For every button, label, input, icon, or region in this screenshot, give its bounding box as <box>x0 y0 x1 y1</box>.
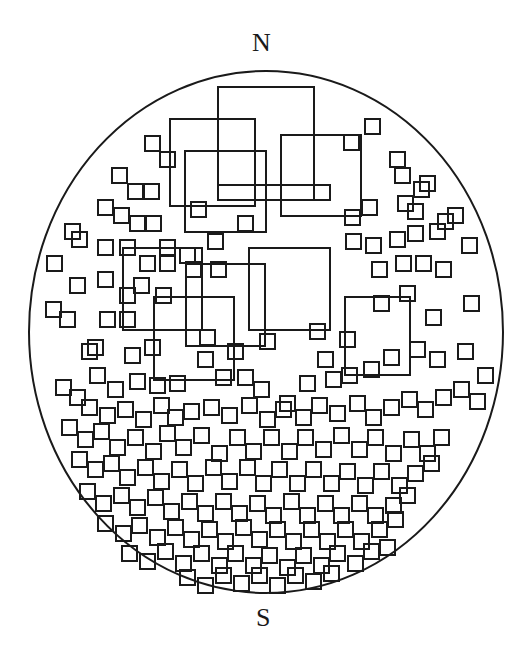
small-square <box>364 544 379 559</box>
small-square <box>110 440 125 455</box>
small-square <box>318 496 333 511</box>
small-square <box>396 256 411 271</box>
small-square <box>270 522 285 537</box>
small-square <box>296 548 311 563</box>
small-square <box>366 238 381 253</box>
small-square <box>276 402 291 417</box>
large-squares-group <box>123 87 410 380</box>
small-square <box>290 476 305 491</box>
small-square <box>374 296 389 311</box>
small-square <box>344 135 359 150</box>
small-square <box>420 176 435 191</box>
small-square <box>108 382 123 397</box>
small-square <box>170 376 185 391</box>
small-square <box>168 410 183 425</box>
small-square <box>194 428 209 443</box>
small-square <box>334 508 349 523</box>
small-square <box>262 548 277 563</box>
south-label: S <box>256 605 270 631</box>
small-square <box>236 520 251 535</box>
small-square <box>368 430 383 445</box>
small-square <box>408 466 423 481</box>
small-square <box>176 556 191 571</box>
small-square <box>286 534 301 549</box>
small-square <box>145 136 160 151</box>
small-square <box>404 432 419 447</box>
small-square <box>104 456 119 471</box>
small-square <box>358 478 373 493</box>
small-square <box>98 272 113 287</box>
small-square <box>365 119 380 134</box>
small-square <box>200 330 215 345</box>
small-square <box>212 446 227 461</box>
small-square <box>454 382 469 397</box>
small-square <box>310 324 325 339</box>
small-square <box>346 234 361 249</box>
small-square <box>222 474 237 489</box>
small-square <box>60 312 75 327</box>
small-square <box>264 430 279 445</box>
small-square <box>254 382 269 397</box>
small-square <box>158 544 173 559</box>
small-square <box>352 442 367 457</box>
small-square <box>316 442 331 457</box>
small-square <box>246 444 261 459</box>
small-square <box>330 406 345 421</box>
small-square <box>372 262 387 277</box>
small-square <box>464 296 479 311</box>
small-square <box>47 256 62 271</box>
small-square <box>146 216 161 231</box>
small-square <box>298 430 313 445</box>
small-square <box>116 526 131 541</box>
small-square <box>238 370 253 385</box>
small-square <box>184 532 199 547</box>
small-square <box>130 500 145 515</box>
small-square <box>88 340 103 355</box>
small-square <box>138 460 153 475</box>
small-square <box>168 520 183 535</box>
small-square <box>246 558 261 573</box>
small-square <box>114 488 129 503</box>
small-square <box>272 462 287 477</box>
small-square <box>352 496 367 511</box>
small-square <box>72 452 87 467</box>
small-square <box>390 152 405 167</box>
small-square <box>56 380 71 395</box>
small-square <box>160 426 175 441</box>
small-square <box>252 532 267 547</box>
small-square <box>430 352 445 367</box>
small-square <box>395 168 410 183</box>
small-square <box>448 208 463 223</box>
small-square <box>282 444 297 459</box>
small-square <box>125 348 140 363</box>
small-square <box>384 400 399 415</box>
small-square <box>324 476 339 491</box>
small-square <box>154 398 169 413</box>
small-square <box>112 168 127 183</box>
small-square <box>160 256 175 271</box>
small-square <box>94 424 109 439</box>
small-square <box>118 402 133 417</box>
small-square <box>306 462 321 477</box>
large-square <box>314 185 330 200</box>
small-square <box>146 444 161 459</box>
small-square <box>242 398 257 413</box>
large-square <box>249 248 330 330</box>
small-square <box>120 470 135 485</box>
stereonet-diagram <box>0 0 524 648</box>
small-square <box>130 374 145 389</box>
large-square <box>281 135 361 216</box>
small-square <box>280 396 295 411</box>
small-square <box>252 568 267 583</box>
small-square <box>234 576 249 591</box>
small-square <box>300 376 315 391</box>
small-square <box>266 508 281 523</box>
small-square <box>130 216 145 231</box>
small-square <box>270 578 285 593</box>
small-square <box>345 210 360 225</box>
small-square <box>304 522 319 537</box>
small-square <box>154 474 169 489</box>
small-square <box>334 428 349 443</box>
small-square <box>348 556 363 571</box>
small-square <box>436 390 451 405</box>
